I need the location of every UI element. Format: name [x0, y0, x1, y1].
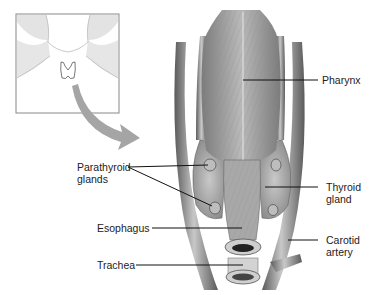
label-parathyroid-glands: Parathyroid glands — [77, 161, 131, 185]
label-carotid-artery: Carotid artery — [326, 234, 360, 258]
label-pharynx: Pharynx — [322, 74, 361, 86]
esophagus — [224, 160, 261, 255]
trachea — [226, 258, 260, 284]
label-esophagus: Esophagus — [97, 222, 150, 234]
anatomy-diagram: Pharynx Parathyroid glands Thyroid gland… — [0, 0, 382, 295]
label-thyroid-gland: Thyroid gland — [326, 181, 361, 205]
inset-locator — [16, 14, 119, 113]
pharynx — [201, 10, 280, 164]
diagram-artwork — [0, 0, 382, 295]
label-trachea: Trachea — [97, 259, 135, 271]
